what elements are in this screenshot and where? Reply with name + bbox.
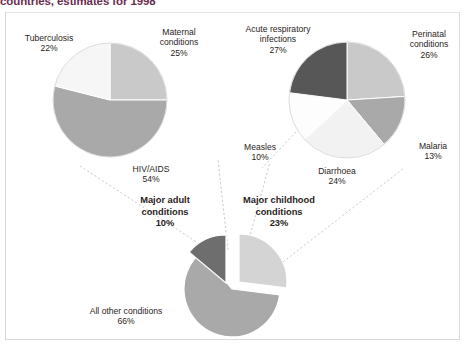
label-maternal-conditions: Maternal conditions 25%: [140, 27, 218, 58]
label-maternal-value: 25%: [140, 48, 218, 58]
label-major-childhood-name-1: Major childhood: [226, 195, 332, 207]
label-tuberculosis: Tuberculosis 22%: [6, 33, 92, 54]
label-major-adult-conditions: Major adult conditions 10%: [119, 195, 211, 230]
label-hiv-aids-name: HIV/AIDS: [118, 164, 184, 174]
label-maternal-name-2: conditions: [140, 37, 218, 47]
label-maternal-name-1: Maternal: [140, 27, 218, 37]
label-diarrhoea: Diarrhoea 24%: [306, 166, 368, 187]
major-adult-conditions-pie: [53, 43, 167, 157]
label-ari-value: 27%: [232, 45, 324, 55]
label-tuberculosis-value: 22%: [6, 43, 92, 53]
label-perinatal-name-1: Perinatal: [396, 29, 462, 39]
label-hiv-aids: HIV/AIDS 54%: [118, 164, 184, 185]
label-hiv-aids-value: 54%: [118, 174, 184, 184]
label-major-childhood-name-2: conditions: [226, 207, 332, 219]
label-ari-name-1: Acute respiratory: [232, 24, 324, 34]
label-acute-respiratory-infections: Acute respiratory infections 27%: [232, 24, 324, 55]
overall-conditions-pie: [184, 234, 287, 337]
label-all-other-value: 66%: [76, 316, 176, 326]
slice-major-childhood-conditions: [239, 234, 287, 288]
label-measles-name: Measles: [232, 142, 288, 152]
label-major-adult-name-1: Major adult: [119, 195, 211, 207]
major-childhood-conditions-pie: [289, 42, 405, 158]
label-malaria-value: 13%: [406, 151, 460, 161]
label-major-adult-name-2: conditions: [119, 207, 211, 219]
label-malaria: Malaria 13%: [406, 141, 460, 162]
label-tuberculosis-name: Tuberculosis: [6, 33, 92, 43]
label-diarrhoea-name: Diarrhoea: [306, 166, 368, 176]
label-all-other-name: All other conditions: [76, 306, 176, 316]
label-major-adult-value: 10%: [119, 218, 211, 230]
label-ari-name-2: infections: [232, 34, 324, 44]
label-perinatal-value: 26%: [396, 50, 462, 60]
label-all-other-conditions: All other conditions 66%: [76, 306, 176, 327]
label-measles: Measles 10%: [232, 142, 288, 163]
label-measles-value: 10%: [232, 152, 288, 162]
label-perinatal-name-2: conditions: [396, 39, 462, 49]
label-malaria-name: Malaria: [406, 141, 460, 151]
label-major-childhood-conditions: Major childhood conditions 23%: [226, 195, 332, 230]
label-diarrhoea-value: 24%: [306, 176, 368, 186]
label-major-childhood-value: 23%: [226, 218, 332, 230]
label-perinatal-conditions: Perinatal conditions 26%: [396, 29, 462, 60]
